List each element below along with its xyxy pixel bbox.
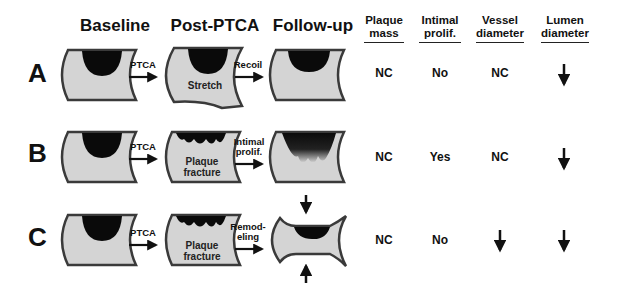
- header-plaque-mass: Plaque mass: [364, 14, 404, 43]
- arrow-label-intimal-prolif: Intimal prolif.: [230, 137, 268, 157]
- cell-plaque-mass-b: NC: [354, 150, 414, 164]
- cell-vessel-diameter-b: NC: [470, 150, 530, 164]
- stage-header-baseline: Baseline: [60, 16, 170, 36]
- cell-vessel-diameter-a: NC: [470, 66, 530, 80]
- header-line: diameter: [476, 27, 524, 40]
- down-arrow-icon: [558, 64, 570, 88]
- arrow-right-icon: [128, 155, 158, 163]
- vessel-baseline-b: [58, 130, 138, 186]
- compress-up-arrow-icon: [300, 264, 312, 284]
- stage-header-post-ptca: Post-PTCA: [160, 16, 270, 36]
- down-arrow-icon: [494, 230, 506, 254]
- arrow-right-icon: [234, 160, 264, 168]
- cell-intimal-prolif-c: No: [410, 233, 470, 247]
- arrow-label-remodeling: Remod- eling: [228, 222, 268, 242]
- header-line: Plaque: [364, 14, 404, 27]
- down-arrow-icon: [558, 230, 570, 254]
- label-stretch: Stretch: [180, 80, 230, 91]
- label-line: Plaque: [177, 156, 227, 167]
- cell-intimal-prolif-a: No: [410, 66, 470, 80]
- arrow-label-ptca-b: PTCA: [126, 142, 160, 152]
- label-line: eling: [228, 232, 268, 242]
- cell-intimal-prolif-b: Yes: [410, 150, 470, 164]
- header-line: Lumen: [541, 14, 589, 27]
- arrow-right-icon: [234, 245, 264, 253]
- header-lumen-diameter: Lumen diameter: [541, 14, 589, 43]
- vessel-post-ptca-a: [162, 46, 244, 110]
- header-line: diameter: [541, 27, 589, 40]
- label-plaque-fracture-b: Plaque fracture: [177, 156, 227, 178]
- header-line: Intimal: [419, 14, 461, 27]
- row-label-a: A: [28, 58, 47, 89]
- header-intimal-prolif: Intimal prolif.: [419, 14, 461, 43]
- vessel-baseline-a: [58, 48, 138, 104]
- arrow-label-recoil: Recoil: [230, 60, 266, 70]
- row-label-b: B: [28, 138, 47, 169]
- header-line: Vessel: [476, 14, 524, 27]
- row-label-c: C: [28, 222, 47, 253]
- vessel-baseline-c: [58, 213, 138, 269]
- header-line: mass: [364, 27, 404, 40]
- vessel-follow-up-a: [266, 48, 346, 104]
- stage-header-follow-up: Follow-up: [263, 16, 363, 36]
- compress-down-arrow-icon: [300, 195, 312, 215]
- label-line: Plaque: [177, 240, 227, 251]
- header-vessel-diameter: Vessel diameter: [476, 14, 524, 43]
- arrow-right-icon: [128, 241, 158, 249]
- cell-plaque-mass-a: NC: [354, 66, 414, 80]
- label-line: prolif.: [230, 147, 268, 157]
- arrow-label-ptca-c: PTCA: [126, 228, 160, 238]
- header-line: prolif.: [419, 27, 461, 40]
- down-arrow-icon: [558, 148, 570, 172]
- vessel-follow-up-b: [266, 130, 346, 186]
- vessel-follow-up-c-remodeled: [266, 212, 348, 270]
- arrow-right-icon: [128, 73, 158, 81]
- arrow-right-icon: [234, 73, 264, 81]
- arrow-label-ptca-a: PTCA: [126, 60, 160, 70]
- label-plaque-fracture-c: Plaque fracture: [177, 240, 227, 262]
- cell-plaque-mass-c: NC: [354, 233, 414, 247]
- label-line: fracture: [177, 251, 227, 262]
- label-line: fracture: [177, 167, 227, 178]
